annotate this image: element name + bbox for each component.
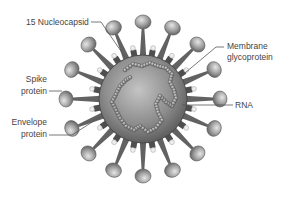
spike-stalk: [140, 141, 146, 169]
envelope-protein-knob: [90, 107, 95, 112]
label-envelope-line1: Envelope: [4, 117, 47, 127]
label-membrane-glycoprotein: Membrane glycoprotein: [227, 41, 273, 62]
spike-head: [205, 118, 224, 138]
label-membrane-line1: Membrane: [227, 41, 273, 51]
rna-bead: [128, 75, 132, 79]
envelope-protein-knob: [169, 140, 174, 145]
envelope-protein-knob: [184, 125, 189, 130]
envelope-protein-knob: [97, 125, 102, 130]
envelope-protein-knob: [112, 140, 117, 145]
label-spike-line1: Spike: [10, 74, 47, 84]
label-spike-line2: protein: [10, 86, 47, 96]
envelope-protein-knob: [97, 68, 102, 73]
envelope-protein-knob: [151, 46, 156, 51]
spike-head: [103, 18, 123, 37]
label-envelope-protein: Envelope protein: [4, 117, 47, 139]
envelope-protein-knob: [112, 53, 117, 58]
envelope-protein-knob: [169, 53, 174, 58]
label-membrane-line2: glycoprotein: [227, 52, 273, 62]
spike-stalk: [73, 96, 101, 102]
envelope-protein-knob: [192, 86, 197, 91]
envelope-protein-knob: [192, 107, 197, 112]
label-rna: RNA: [235, 100, 253, 110]
spike-head: [205, 59, 224, 79]
spike-head: [62, 59, 81, 79]
spike-head: [62, 118, 81, 138]
spike-head: [135, 169, 151, 183]
spike-stalk: [140, 29, 146, 57]
spike-head: [162, 18, 182, 37]
envelope-protein-knob: [90, 86, 95, 91]
spike-stalk: [185, 96, 213, 102]
diagram-stage: 15 Nucleocapsid Spike protein Envelope p…: [0, 0, 286, 199]
envelope-protein-knob: [130, 46, 135, 51]
label-nucleocapsid: 15 Nucleocapsid: [26, 17, 89, 27]
envelope-protein-knob: [130, 148, 135, 153]
spike-head: [103, 161, 123, 180]
label-envelope-line2: protein: [4, 129, 47, 139]
spike-head: [135, 15, 151, 29]
label-spike-protein: Spike protein: [10, 74, 47, 96]
envelope-protein-knob: [151, 148, 156, 153]
spike-head: [59, 91, 73, 107]
spike-head: [162, 161, 182, 180]
